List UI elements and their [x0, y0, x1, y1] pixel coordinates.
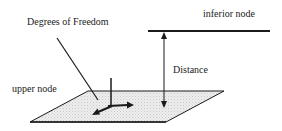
distance-arrow-head-up-icon — [161, 32, 167, 39]
upper-node-label: upper node — [12, 84, 57, 94]
inferior-node-label: inferior node — [203, 9, 255, 19]
dof-pointer-line — [57, 38, 98, 100]
degrees-of-freedom-label: Degrees of Freedom — [27, 17, 109, 27]
diagram-canvas: Degrees of Freedom inferior node Distanc… — [0, 0, 282, 131]
distance-label: Distance — [173, 65, 208, 75]
